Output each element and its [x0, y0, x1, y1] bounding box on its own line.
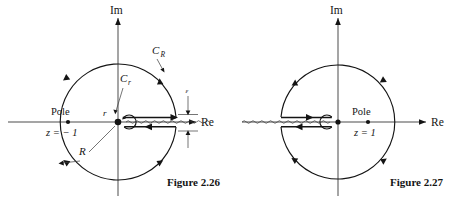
pole-value-label: z = − 1: [45, 127, 77, 138]
radius-leader-arrowhead: [59, 161, 64, 166]
figure-2-26-drawing: Re Im: [0, 0, 240, 208]
figure-page: Re Im: [0, 0, 471, 208]
origin-marker-2: [335, 119, 340, 124]
epsilon-label: ε: [186, 87, 189, 95]
imag-axis-label: Im: [110, 4, 123, 16]
branch-cut-upper-arrowhead-2: [306, 114, 314, 121]
imag-axis-arrowhead: [115, 18, 121, 25]
outer-curve-leader-line: [157, 59, 163, 70]
pole-name-label: Pole: [51, 106, 70, 117]
outer-arrow-lower-right-2: [380, 159, 387, 165]
axes-group: [8, 18, 196, 196]
outer-arrow-upper-left: [63, 74, 70, 81]
pole-value-label-2: z = 1: [353, 127, 376, 138]
pole-dot-2: [366, 120, 370, 124]
outer-curve-subscript: R: [160, 50, 166, 59]
branch-cut-lower-arrowhead: [145, 123, 153, 130]
real-axis-arrowhead: [189, 119, 196, 125]
figure-2-27-caption: Figure 2.27: [390, 176, 443, 188]
inner-curve-label: C: [120, 72, 128, 84]
outer-arrow-upper-right-2: [380, 76, 387, 82]
origin-marker: [115, 119, 122, 126]
inner-curve-leader-line: [116, 88, 123, 111]
inner-curve-annotation: C r: [113, 72, 131, 114]
outer-curve-label: C: [152, 44, 160, 56]
figure-2-27-panel: Re Im: [240, 0, 471, 208]
figure-2-27-drawing: Re Im: [240, 0, 471, 208]
radius-label: R: [78, 145, 86, 157]
imag-axis-arrowhead-2: [335, 18, 341, 25]
inner-curve-subscript: r: [128, 78, 131, 87]
real-axis-label: Re: [201, 116, 214, 128]
branch-cut-squiggle-2: [242, 121, 330, 124]
outer-curve-annotation: C R: [152, 44, 166, 73]
figure-2-26-panel: Re Im: [0, 0, 240, 208]
figure-2-26-caption: Figure 2.26: [167, 176, 220, 188]
imag-axis-label-2: Im: [330, 4, 343, 16]
radius-leader-upper: [89, 126, 115, 152]
inner-curve-leader-arrowhead: [113, 110, 117, 115]
real-axis-label-2: Re: [431, 116, 444, 128]
axes-group-2: [242, 18, 426, 196]
small-radius-label: r: [103, 108, 107, 118]
pole-dot: [66, 120, 70, 124]
branch-cut-lower-arrowhead-2: [295, 123, 303, 130]
real-axis-arrowhead-2: [419, 119, 426, 125]
epsilon-annotation: ε: [178, 87, 198, 148]
outer-arrow-lower-left-2: [291, 158, 298, 164]
outer-arrow-lower-left: [63, 160, 70, 167]
branch-cut-upper-arrowhead: [171, 114, 179, 121]
pole-name-label-2: Pole: [352, 106, 371, 117]
